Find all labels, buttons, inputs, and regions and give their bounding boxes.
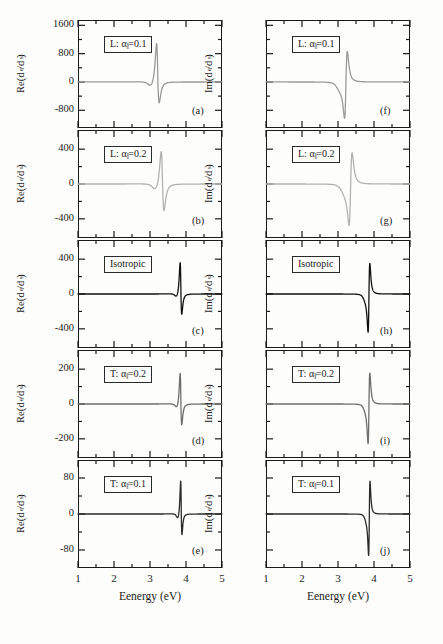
y-tick-label: 0 — [32, 508, 74, 519]
y-axis-label-g: Im(de/ds) — [204, 138, 218, 230]
panel-e: Re(de/ds)800-80T: α‖=0.1(e) — [0, 0, 221, 644]
y-axis-label-f: Im(de/ds) — [204, 28, 218, 120]
figure-panel-grid: Re(de/ds)16008000-800L: α‖=0.1(a)Re(de/d… — [0, 0, 443, 644]
panel-letter-e: (e) — [192, 546, 204, 557]
y-axis-label-h: Im(de/ds) — [204, 248, 218, 340]
column-right: Im(de/ds)L: α‖=0.1(f)Im(de/ds)L: α‖=0.2(… — [222, 0, 443, 644]
x-tick-label: 2 — [293, 573, 311, 584]
panel-annotation-j: T: α‖=0.1 — [292, 476, 340, 493]
plot-canvas-j — [222, 0, 443, 644]
panel-annotation-e: T: α‖=0.1 — [104, 476, 152, 493]
x-tick-label: 3 — [329, 573, 347, 584]
x-tick-label: 5 — [401, 573, 419, 584]
x-tick-label: 3 — [141, 573, 159, 584]
panel-j: Im(de/ds)T: α‖=0.1(j) — [222, 0, 443, 644]
x-tick-label: 4 — [365, 573, 383, 584]
y-axis-label-j: Im(de/ds) — [204, 468, 218, 560]
panel-letter-j: (j) — [380, 546, 390, 557]
column-left: Re(de/ds)16008000-800L: α‖=0.1(a)Re(de/d… — [0, 0, 221, 644]
y-tick-label: -80 — [32, 544, 74, 555]
x-tick-label: 1 — [257, 573, 275, 584]
y-axis-label-i: Im(de/ds) — [204, 358, 218, 450]
x-tick-label: 1 — [69, 573, 87, 584]
x-axis-title-left: Eenergy (eV) — [78, 591, 222, 603]
x-tick-label: 4 — [177, 573, 195, 584]
x-tick-label: 2 — [105, 573, 123, 584]
y-tick-label: 80 — [32, 472, 74, 483]
x-axis-title-right: Eenergy (eV) — [266, 591, 410, 603]
y-axis-label-e: Re(de/ds) — [16, 468, 30, 560]
